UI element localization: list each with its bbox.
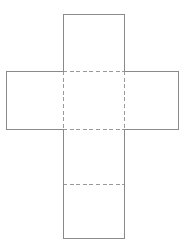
center-face (63, 71, 124, 129)
diagram-canvas (0, 0, 185, 247)
lower-face (63, 129, 124, 184)
left-face (6, 71, 63, 129)
bottom-face (63, 184, 124, 238)
cube-net-diagram (0, 0, 185, 247)
top-face (63, 14, 124, 71)
right-face (124, 71, 178, 129)
